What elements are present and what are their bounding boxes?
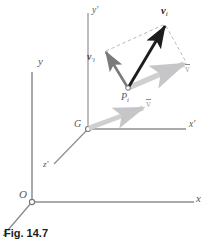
figure-container: y x z y′ x′ z′ O G Pi vi v′i v v Fig. 14… xyxy=(0,0,212,246)
origin-O-marker xyxy=(29,199,34,204)
z-prime-axis-label: z′ xyxy=(43,160,48,169)
vector-vi-label: vi xyxy=(161,6,168,18)
point-Pi-label: Pi xyxy=(121,92,129,104)
vi-prime-i: i xyxy=(93,56,95,63)
vector-vbar-lower-label: v xyxy=(146,100,151,110)
x-prime-axis-label: x′ xyxy=(189,120,195,130)
z-prime-axis-line xyxy=(54,129,88,164)
figure-drawing xyxy=(0,0,212,246)
point-Pi-marker xyxy=(126,86,131,91)
centroidal-frame-axes xyxy=(54,13,186,164)
dashed-side-top xyxy=(106,25,163,51)
dashed-side-right xyxy=(166,26,186,62)
z-axis-line xyxy=(8,202,32,230)
vector-vbar-upper-label: v xyxy=(185,65,190,75)
centroid-G-label: G xyxy=(74,119,81,129)
vector-parallelogram xyxy=(106,25,186,90)
vbar-lower-shaft xyxy=(89,108,143,128)
vbar-lower-glyph: v xyxy=(146,100,151,110)
vector-vi-prime-label: v′i xyxy=(87,52,95,64)
vector-vi-subscript: i xyxy=(166,10,168,18)
origin-O-label: O xyxy=(19,189,27,200)
vbar-upper-glyph: v xyxy=(185,65,190,75)
figure-caption: Fig. 14.7 xyxy=(4,228,48,239)
vector-vi-prime-subscript: ′i xyxy=(91,56,94,63)
y-prime-axis-label: y′ xyxy=(92,6,98,16)
y-axis-label: y xyxy=(38,56,43,67)
x-axis-label: x xyxy=(196,193,201,204)
vector-vbar-at-G xyxy=(89,108,143,128)
vector-vi-prime-shaft xyxy=(106,52,128,88)
point-Pi-subscript: i xyxy=(127,96,129,103)
fixed-frame-axes xyxy=(8,72,194,230)
